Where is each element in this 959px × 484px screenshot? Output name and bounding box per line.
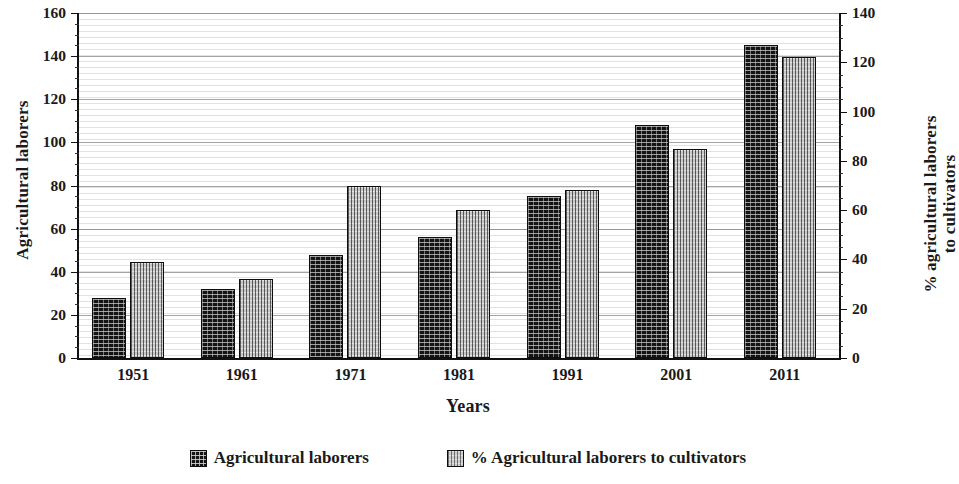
- y-axis-right-minor-tick: [839, 247, 843, 248]
- y-axis-right-minor-tick: [839, 346, 843, 347]
- y-axis-left-tick-label: 140: [43, 48, 66, 64]
- y-axis-right-minor-tick: [839, 38, 843, 39]
- y-axis-right-minor-tick: [839, 136, 843, 137]
- legend-swatch-icon: [447, 450, 464, 467]
- y-axis-right-minor-tick: [839, 235, 843, 236]
- bar: [565, 190, 599, 358]
- y-axis-right-minor-tick: [839, 284, 843, 285]
- bar: [527, 196, 561, 358]
- bar: [92, 298, 126, 358]
- y-axis-right-tick: [839, 358, 847, 359]
- legend-item[interactable]: % Agricultural laborers to cultivators: [447, 448, 746, 468]
- y-axis-left-tick: [71, 56, 79, 57]
- y-axis-right-tick-label: 80: [852, 153, 868, 169]
- y-axis-right-minor-tick: [839, 186, 843, 187]
- y-axis-left-tick: [71, 229, 79, 230]
- legend-swatch-icon: [190, 450, 207, 467]
- y-axis-right-tick-label: 100: [852, 104, 875, 120]
- bar: [673, 149, 707, 358]
- y-axis-right-minor-tick: [839, 99, 843, 100]
- y-axis-right-minor-tick: [839, 173, 843, 174]
- bar: [456, 210, 490, 358]
- bar: [782, 57, 816, 358]
- y-axis-left-tick-label: 120: [43, 92, 66, 108]
- bars-layer: [79, 13, 839, 358]
- y-axis-right-minor-tick: [839, 50, 843, 51]
- y-axis-right-minor-tick: [839, 333, 843, 334]
- y-axis-left-tick: [71, 315, 79, 316]
- y-axis-right-minor-tick: [839, 198, 843, 199]
- y-axis-right-minor-tick: [839, 272, 843, 273]
- x-axis-tick-label: 2011: [769, 366, 800, 384]
- bar: [201, 289, 235, 358]
- y-axis-right-title-line-2: to cultivators: [940, 155, 959, 254]
- x-axis-tick-label: 2001: [660, 366, 692, 384]
- y-axis-right-tick-label: 120: [852, 55, 875, 71]
- y-axis-left-tick: [71, 13, 79, 14]
- bar: [239, 279, 273, 358]
- y-axis-left-tick-label: 20: [51, 307, 67, 323]
- x-axis-tick-label: 1971: [334, 366, 366, 384]
- bar: [130, 262, 164, 358]
- chart-legend: Agricultural laborers% Agricultural labo…: [0, 448, 936, 468]
- legend-label: Agricultural laborers: [214, 448, 369, 468]
- y-axis-right-minor-tick: [839, 296, 843, 297]
- y-axis-right-minor-tick: [839, 222, 843, 223]
- y-axis-right-tick: [839, 13, 847, 14]
- y-axis-left-tick: [71, 99, 79, 100]
- y-axis-left-tick-label: 160: [43, 5, 66, 21]
- y-axis-left-tick-label: 0: [58, 350, 66, 366]
- y-axis-left-tick-label: 60: [51, 221, 67, 237]
- y-axis-right-title: % agricultural laborers to cultivators: [921, 54, 959, 354]
- x-axis-tick-label: 1981: [443, 366, 475, 384]
- plot-area: 020406080100120140160 020406080100120140: [77, 13, 841, 360]
- y-axis-left-title: Agricultural laborers: [13, 60, 33, 300]
- bar: [744, 45, 778, 358]
- y-axis-left-tick-label: 80: [51, 178, 67, 194]
- y-axis-right-minor-tick: [839, 149, 843, 150]
- legend-item[interactable]: Agricultural laborers: [190, 448, 369, 468]
- y-axis-right-minor-tick: [839, 25, 843, 26]
- y-axis-right-minor-tick: [839, 87, 843, 88]
- y-axis-right-minor-tick: [839, 321, 843, 322]
- y-axis-left-tick: [71, 142, 79, 143]
- y-axis-right-tick-label: 0: [852, 350, 860, 366]
- y-axis-right-tick-label: 60: [852, 202, 868, 218]
- y-axis-right-tick: [839, 210, 847, 211]
- y-axis-right-tick: [839, 161, 847, 162]
- y-axis-right-tick: [839, 259, 847, 260]
- bar: [635, 125, 669, 358]
- y-axis-right-tick-label: 40: [852, 252, 868, 268]
- bar: [418, 237, 452, 358]
- y-axis-right-tick: [839, 112, 847, 113]
- x-axis-tick-label: 1991: [552, 366, 584, 384]
- y-axis-right-minor-tick: [839, 124, 843, 125]
- legend-label: % Agricultural laborers to cultivators: [471, 448, 746, 468]
- y-axis-right-tick: [839, 62, 847, 63]
- y-axis-right-tick-label: 140: [852, 5, 875, 21]
- x-axis-tick-label: 1951: [117, 366, 149, 384]
- y-axis-left-tick: [71, 358, 79, 359]
- x-axis-title: Years: [0, 396, 936, 417]
- bar: [309, 255, 343, 359]
- y-axis-left-tick: [71, 186, 79, 187]
- y-axis-right-tick-label: 20: [852, 301, 868, 317]
- y-axis-right-title-line-1: % agricultural laborers: [921, 115, 940, 292]
- y-axis-left-tick: [71, 272, 79, 273]
- y-axis-left-tick-label: 100: [43, 135, 66, 151]
- bar: [347, 186, 381, 359]
- x-axis-tick-label: 1961: [226, 366, 258, 384]
- y-axis-left-tick-label: 40: [51, 264, 67, 280]
- y-axis-right-tick: [839, 309, 847, 310]
- y-axis-right-minor-tick: [839, 75, 843, 76]
